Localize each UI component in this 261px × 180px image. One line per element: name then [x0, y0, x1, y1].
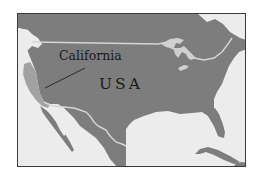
country-label: USA: [99, 77, 143, 93]
california-label: California: [59, 50, 122, 63]
map-frame: California USA: [17, 13, 246, 167]
